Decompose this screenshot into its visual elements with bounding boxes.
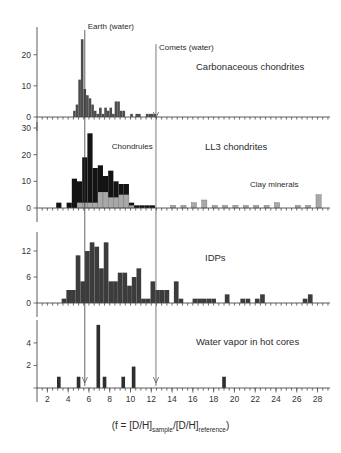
bar xyxy=(146,299,151,303)
xaxis-caption: (f = [D/H]sample/[D/H]reference) xyxy=(112,420,230,431)
x-tick-label: 10 xyxy=(126,394,136,404)
bar xyxy=(136,268,141,303)
bar xyxy=(316,195,321,208)
y-tick-label: 2 xyxy=(26,360,31,370)
panel-title-water-vapor: Water vapor in hot cores xyxy=(196,336,299,347)
bar xyxy=(57,377,61,388)
bar xyxy=(93,168,98,203)
bar xyxy=(102,114,105,117)
bar xyxy=(108,171,113,198)
bar xyxy=(255,299,260,303)
comets-water-label: Comets (water) xyxy=(159,43,214,52)
bar xyxy=(89,98,92,117)
bar xyxy=(72,179,77,208)
x-tick-label: 28 xyxy=(313,394,323,404)
bar xyxy=(93,203,98,208)
bar xyxy=(85,251,90,303)
bar xyxy=(98,165,103,192)
y-tick-label: 12 xyxy=(22,246,32,256)
bar xyxy=(90,242,95,303)
bar xyxy=(127,286,132,303)
x-tick-label: 16 xyxy=(188,394,198,404)
bar xyxy=(202,299,207,303)
bar xyxy=(62,299,67,303)
xaxis-caption-main: (f = [D/H] xyxy=(112,420,152,431)
bar xyxy=(98,192,103,208)
bar xyxy=(130,114,133,117)
bar xyxy=(138,114,141,117)
bar xyxy=(78,80,81,117)
xaxis-caption-sub1: sample xyxy=(152,426,173,433)
earth-water-label: Earth (water) xyxy=(88,22,135,31)
caption-layer: (f = [D/H]sample/[D/H]reference) xyxy=(0,415,341,433)
bar xyxy=(129,203,134,206)
bar xyxy=(76,105,79,117)
y-tick-label: 20 xyxy=(22,150,32,160)
bar xyxy=(141,299,146,303)
bar xyxy=(132,367,136,388)
x-tick-label: 12 xyxy=(147,394,157,404)
bar xyxy=(103,377,107,388)
clay-minerals-annotation: Clay minerals xyxy=(250,180,298,189)
bar xyxy=(260,294,265,303)
bar xyxy=(202,200,207,208)
dh-ratio-histogram-figure: 0102001020300612242468101214161820222426… xyxy=(0,0,341,453)
bar xyxy=(174,281,179,303)
figure-svg: 0102001020300612242468101214161820222426… xyxy=(0,0,341,453)
bar xyxy=(109,108,112,117)
x-tick-label: 18 xyxy=(209,394,219,404)
bar xyxy=(135,114,138,117)
panel-title-idps: IDPs xyxy=(205,252,226,263)
bar xyxy=(124,184,129,195)
bar xyxy=(160,290,165,303)
bar xyxy=(240,299,245,303)
bar xyxy=(77,377,81,388)
bar xyxy=(179,299,184,303)
x-tick-label: 22 xyxy=(250,394,260,404)
bar xyxy=(94,111,97,117)
bar xyxy=(151,114,154,117)
bar xyxy=(86,95,89,117)
chondrules-annotation: Chondrules xyxy=(112,142,153,151)
bar xyxy=(197,299,202,303)
bar xyxy=(246,299,251,303)
x-tick-label: 24 xyxy=(271,394,281,404)
bar xyxy=(222,377,226,388)
bar xyxy=(71,290,76,303)
y-tick-label: 4 xyxy=(26,338,31,348)
bar xyxy=(119,195,124,208)
panel-title-carbonaceous: Carbonaceous chondrites xyxy=(196,61,305,72)
bar xyxy=(77,181,82,202)
bar xyxy=(112,114,115,117)
bar xyxy=(165,290,170,303)
bar xyxy=(274,203,279,208)
bar xyxy=(108,281,113,303)
bar xyxy=(99,108,102,117)
bar xyxy=(66,290,71,303)
x-tick-label: 20 xyxy=(230,394,240,404)
bar xyxy=(115,101,118,117)
bar xyxy=(211,299,216,303)
bar xyxy=(113,197,118,208)
bar xyxy=(103,176,108,192)
y-tick-label: 0 xyxy=(26,298,31,308)
bar xyxy=(308,294,313,303)
bar xyxy=(118,273,123,303)
bar xyxy=(151,281,156,303)
x-tick-label: 6 xyxy=(87,394,92,404)
bar xyxy=(113,281,118,303)
bar xyxy=(80,281,85,303)
bar xyxy=(122,273,127,303)
x-tick-label: 14 xyxy=(167,394,177,404)
bar xyxy=(81,39,84,117)
xaxis-caption-end: ) xyxy=(226,420,229,431)
bar xyxy=(113,181,118,197)
xaxis-caption-mid: /[D/H] xyxy=(173,420,199,431)
bar xyxy=(124,195,129,208)
bar xyxy=(119,184,124,195)
y-tick-label: 10 xyxy=(22,81,32,91)
bar xyxy=(191,203,196,208)
bar xyxy=(87,203,92,208)
y-tick-label: 10 xyxy=(22,176,32,186)
bar xyxy=(193,299,198,303)
